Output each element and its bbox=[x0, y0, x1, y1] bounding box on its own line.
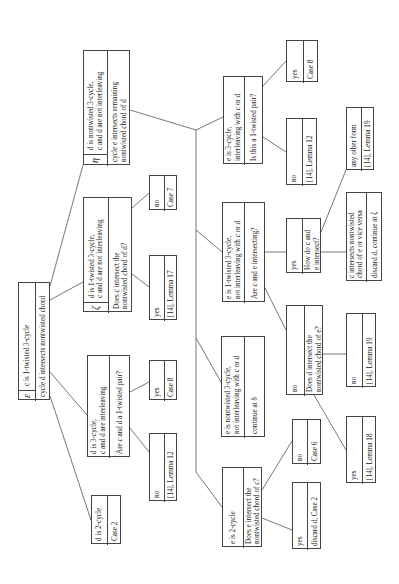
node-d-1twisted-yes: yes[14], Lemma 17 bbox=[149, 255, 177, 320]
node-header: no bbox=[347, 314, 363, 388]
node-body: [14], Lemma 12 bbox=[165, 434, 179, 502]
node-text: [14], Lemma 19 bbox=[364, 120, 372, 167]
node-header: no bbox=[287, 306, 305, 396]
node-text: Case 8 bbox=[307, 60, 315, 79]
node-text: How do c and bbox=[304, 230, 312, 270]
node-body: [14], Lemma 19 bbox=[363, 314, 378, 388]
node-header: yes bbox=[287, 219, 303, 274]
node-text: any other form bbox=[350, 124, 358, 167]
node-text: e is 3-cycle, bbox=[225, 94, 233, 161]
node-e-1twisted: e is 1-twisted 3-cycle,not interleaving … bbox=[222, 202, 265, 302]
node-header: c intersects nontwistedchord of e or vic… bbox=[347, 193, 367, 282]
node-header: no bbox=[287, 119, 303, 186]
node-text: no bbox=[153, 200, 161, 207]
node-text: yes bbox=[290, 260, 298, 270]
node-body: Does d intersect thenontwisted chord of … bbox=[305, 306, 324, 396]
node-text: nontwisted chord of d? bbox=[121, 243, 129, 309]
node-e-2cycle-no: noCase 6 bbox=[292, 419, 321, 464]
node-text: yes bbox=[153, 307, 161, 317]
node-body: How do c ande intersect? bbox=[303, 219, 322, 274]
node-e-1twisted-yes-form: c intersects nontwistedchord of e or vic… bbox=[346, 192, 382, 281]
node-text: discard d, continue at ζ bbox=[371, 212, 379, 278]
node-text: e intersect? bbox=[313, 230, 321, 270]
node-text: not interleaving with c or d bbox=[233, 356, 241, 434]
zeta-label: ζ bbox=[84, 302, 108, 313]
node-body: cycle e intersects remainingnontwisted c… bbox=[108, 51, 131, 166]
node-header: e is 1-twisted 3-cycle,not interleaving … bbox=[223, 203, 245, 303]
node-d-1twisted: ζd is 1-twisted 3-cycle,c and d are not … bbox=[83, 197, 132, 312]
node-body: Does e intersect thenontwisted chord of … bbox=[244, 468, 264, 548]
node-text: e is 1-twisted 3-cycle, bbox=[225, 221, 233, 299]
node-text: Is this a 1-twisted pair? bbox=[250, 94, 258, 161]
node-body: Case 7 bbox=[165, 176, 179, 211]
node-text: [14], Lemma 18 bbox=[366, 433, 374, 480]
node-e-3cycle: e is 3-cycle,interleaving with c or dIs … bbox=[223, 76, 263, 164]
node-text: no bbox=[296, 454, 304, 461]
node-body: [14], Lemma 18 bbox=[363, 417, 378, 484]
node-body: continue at δ bbox=[245, 337, 267, 438]
node-text: [14], Lemma 12 bbox=[167, 451, 175, 498]
node-e-2cycle: e is 2-cycleDoes e intersect thenontwist… bbox=[222, 467, 262, 547]
node-d-1twisted-no: noCase 7 bbox=[149, 175, 177, 210]
node-text: no bbox=[291, 385, 299, 392]
node-text: no bbox=[290, 175, 298, 182]
node-header: ηd is nontwisted 3-cycle,c and d are not… bbox=[84, 51, 108, 166]
node-header: e is nontwisted 3-cycle,not interleaving… bbox=[222, 337, 245, 438]
node-text: c and d are not interleaving bbox=[96, 72, 104, 150]
node-d-2cycle: d is 2-cycleCase 2 bbox=[91, 495, 121, 544]
node-text: [14], Lemma 12 bbox=[306, 135, 314, 182]
node-e-2cycle-yes: yesdiscard d, Case 2 bbox=[292, 482, 321, 549]
node-text: e is nontwisted 3-cycle, bbox=[224, 356, 232, 434]
node-text: Does e intersect the bbox=[245, 478, 253, 544]
node-text: d is 1-twisted 3-cycle, bbox=[88, 220, 96, 298]
node-header: e is 2-cycle bbox=[223, 468, 244, 548]
node-text: cycle e intersects remaining bbox=[111, 82, 119, 162]
node-text: Case 2 bbox=[111, 522, 119, 541]
node-text: c and d are not interleaving bbox=[96, 220, 104, 298]
node-body: Case 6 bbox=[308, 420, 322, 465]
node-header: no bbox=[293, 420, 308, 465]
eta-label: η bbox=[84, 154, 107, 166]
node-e-1twisted-yes: yesHow do c ande intersect? bbox=[286, 218, 321, 273]
node-text: nontwisted chord of c? bbox=[253, 478, 261, 544]
node-text: Case 8 bbox=[167, 378, 175, 397]
node-d-3cycle: d is 3-cycle,c and d are interleavingAre… bbox=[87, 355, 130, 457]
node-body: Case 8 bbox=[304, 41, 320, 83]
node-text: [14], Lemma 19 bbox=[366, 337, 374, 384]
node-e-nontwisted: e is nontwisted 3-cycle,not interleaving… bbox=[221, 336, 265, 437]
node-text: c and d are interleaving bbox=[99, 387, 107, 454]
connector-lines bbox=[0, 0, 399, 584]
node-text: [14], Lemma 17 bbox=[167, 270, 175, 317]
node-text: Are c and d a 1-twisted pair? bbox=[116, 371, 124, 454]
node-text: chord of e or vice versa bbox=[356, 210, 364, 278]
node-text: Does c intersect the bbox=[113, 243, 121, 309]
node-d-nontwisted: ηd is nontwisted 3-cycle,c and d are not… bbox=[83, 50, 130, 165]
node-text: nontwisted chord of d bbox=[120, 82, 128, 162]
node-text: nontwisted chord of e? bbox=[315, 326, 323, 392]
node-text: Are c and e intersecting? bbox=[251, 228, 259, 299]
node-d-3cycle-no: no[14], Lemma 12 bbox=[149, 433, 177, 501]
node-text: yes bbox=[153, 387, 161, 397]
node-text: Case 7 bbox=[167, 188, 175, 207]
node-e-3cycle-no: no[14], Lemma 12 bbox=[286, 118, 317, 185]
node-e-1twisted-no-no: no[14], Lemma 19 bbox=[346, 313, 376, 387]
node-d-3cycle-yes: yesCase 8 bbox=[149, 360, 177, 400]
node-body: Case 2 bbox=[108, 496, 123, 545]
node-text: no bbox=[153, 491, 161, 498]
node-body: discard d, continue at ζ bbox=[367, 193, 383, 282]
node-text: c intersects nontwisted bbox=[348, 210, 356, 278]
node-text: Does d intersect the bbox=[306, 326, 314, 392]
node-text: not interleaving with c or d bbox=[234, 221, 242, 299]
node-body: discard d, Case 2 bbox=[308, 483, 322, 550]
node-text: Case 6 bbox=[311, 442, 319, 461]
node-body: [14], Lemma 19 bbox=[362, 108, 376, 171]
node-root: εc is 1-twisted 3-cyclecycle d intersect… bbox=[18, 282, 50, 400]
node-header: e is 3-cycle,interleaving with c or d bbox=[224, 77, 245, 165]
node-text: d is 2-cycle bbox=[95, 508, 103, 541]
node-text: yes bbox=[350, 470, 358, 480]
node-body: cycle d intersects nontwisted chord bbox=[36, 283, 52, 401]
node-header: no bbox=[150, 434, 165, 502]
node-header: yes bbox=[347, 417, 363, 484]
node-header: yes bbox=[150, 256, 165, 321]
node-body: Case 8 bbox=[165, 361, 179, 401]
